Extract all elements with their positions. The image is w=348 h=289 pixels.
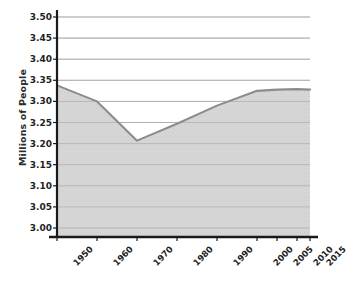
x-tick-label: 2015 — [324, 244, 348, 268]
area-fill — [57, 85, 310, 237]
